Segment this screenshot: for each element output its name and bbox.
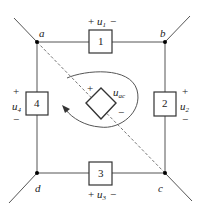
node-a-label: a (39, 28, 45, 39)
u4-plus: + (13, 86, 19, 97)
u3-voltage-label: u3 (97, 189, 106, 202)
u3-minus: − (110, 189, 116, 200)
u1-minus: − (110, 16, 116, 27)
node-b-dot (163, 40, 167, 44)
node-d-label: d (35, 183, 41, 194)
u1-plus: + (88, 16, 94, 27)
lead-d (9, 173, 37, 203)
lead-a (14, 18, 37, 42)
circuit-diagram (0, 0, 202, 211)
element-1-label: 1 (98, 36, 104, 47)
source-minus: − (118, 107, 124, 118)
u3-plus: + (88, 189, 94, 200)
element-2-label: 2 (162, 98, 168, 109)
u2-plus: + (182, 86, 188, 97)
source-plus: + (87, 83, 93, 94)
element-4-label: 4 (34, 98, 40, 109)
u1-subscript: 1 (103, 21, 107, 29)
node-c-label: c (158, 183, 163, 194)
u4-minus: − (13, 114, 19, 125)
u1-voltage-label: u1 (97, 16, 106, 29)
node-d-dot (35, 171, 39, 175)
u2-minus: − (182, 114, 188, 125)
u3-subscript: 3 (103, 194, 107, 202)
loop-arrow-icon (62, 105, 70, 113)
node-b-label: b (160, 28, 166, 39)
node-c-dot (163, 171, 167, 175)
lead-c (165, 173, 192, 201)
node-a-dot (35, 40, 39, 44)
source-voltage-label: uac (113, 87, 125, 100)
element-3-label: 3 (98, 168, 104, 179)
lead-b (165, 16, 190, 42)
source-subscript: ac (119, 92, 126, 100)
